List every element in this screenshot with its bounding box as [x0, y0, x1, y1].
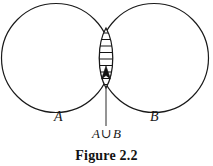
set-a-label: A	[54, 110, 63, 124]
venn-diagram	[0, 0, 213, 166]
circle-set-b	[100, 4, 209, 113]
figure-caption: Figure 2.2	[0, 148, 213, 163]
union-right-operand: B	[113, 126, 121, 141]
intersection-hatch	[94, 26, 118, 90]
union-left-operand: A	[92, 126, 100, 141]
union-operator-symbol: ∪	[100, 126, 113, 141]
figure-container: A B A∪B Figure 2.2	[0, 0, 213, 166]
set-b-label: B	[150, 110, 159, 124]
circle-set-a	[2, 4, 111, 113]
union-expression-label: A∪B	[0, 127, 213, 140]
